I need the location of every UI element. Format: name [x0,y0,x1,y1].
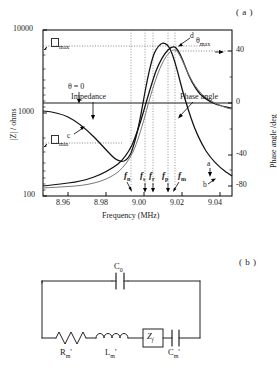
curve-a-label: a [207,160,210,168]
figure-container: ( a ) 10000 1000 100 |Z| / ohms 40 0 -40… [0,0,277,371]
frequency-marker-fr: fr [149,171,155,182]
frequency-marker-fn: fn [124,171,130,182]
ytick-label-right-m80: -80 [236,181,247,189]
ytick-label-right-0: 0 [236,98,240,106]
phase-angle-curve-d [43,47,232,186]
circuit-svg [0,251,277,371]
zmax-glyph-box [51,38,59,47]
curve-d-label: d [190,32,194,40]
y-axis-label-left: |Z| / ohms [10,108,18,140]
xtick-label-1: 8.98 [94,199,108,207]
curve-c-label: c [67,132,70,140]
theta-zero-label: θ = 0 [68,83,84,91]
zmin-glyph-box [51,135,59,144]
ytick-label-100: 100 [23,191,35,199]
curve-b-label: b [203,181,207,189]
y-axis-label-right: Phase angle /deg [270,114,277,168]
lm-inductor-symbol [96,334,128,339]
panel-a-tag: ( a ) [236,8,253,17]
impedance-curve-c [43,43,232,176]
frequency-marker-fm: fm [178,171,186,182]
xtick-label-4: 9.04 [208,199,222,207]
xtick-label-0: 8.96 [56,199,70,207]
rm-label: Rm' [60,348,72,359]
lm-label: Lm' [105,348,116,359]
ytick-label-1000: 1000 [18,108,34,116]
ytick-label-10000: 10000 [13,25,33,33]
zmin-label: min [50,135,68,147]
impedance-label: Impedance [71,93,106,101]
xtick-label-2: 9.00 [132,199,146,207]
ytick-label-right-40: 40 [236,46,244,54]
cm-label: Cm' [168,348,180,359]
panel-a-plot: ( a ) 10000 1000 100 |Z| / ohms 40 0 -40… [0,0,277,240]
x-axis-label: Frequency (MHz) [102,212,160,220]
xtick-group [68,192,220,196]
phase-angle-label: Phase angle [180,93,218,101]
zmax-label: max [50,38,69,50]
frequency-marker-arrows [127,182,179,193]
frequency-marker-fp: fp [162,171,168,182]
zf-label: Zf [147,332,153,343]
xtick-label-3: 9.02 [170,199,184,207]
theta-max-label: θmax [196,37,210,47]
plot-frame [43,30,232,196]
rm-resistor-symbol [56,332,86,344]
c0-label: C0 [114,262,123,273]
ytick-label-right-m40: -40 [236,150,247,158]
frequency-marker-fs: fs [140,171,145,182]
